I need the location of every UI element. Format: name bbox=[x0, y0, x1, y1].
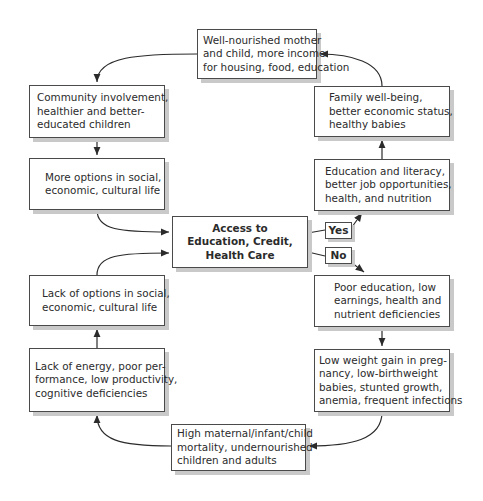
node-text: Community involvement, bbox=[37, 91, 157, 104]
node-lack-of-options: Lack of options in social, economic, cul… bbox=[29, 275, 165, 326]
node-text: nutrient deficiencies bbox=[334, 308, 442, 321]
node-high-mortality: High maternal/infant/child mortality, un… bbox=[171, 424, 306, 471]
node-text: healthier and better- bbox=[37, 105, 157, 118]
node-text: children and adults bbox=[177, 454, 298, 467]
node-education-literacy: Education and literacy, better job oppor… bbox=[314, 159, 450, 211]
node-more-options: More options in social, economic, cultur… bbox=[29, 158, 165, 210]
node-text: cognitive deficiencies bbox=[35, 387, 157, 400]
node-text: mortality, undernourished bbox=[177, 441, 298, 454]
node-text: Health Care bbox=[180, 249, 300, 262]
node-text: for housing, food, education bbox=[203, 61, 311, 74]
node-text: economic, cultural life bbox=[45, 184, 157, 197]
node-text: nancy, low-birthweight bbox=[319, 367, 446, 380]
node-text: better job opportunities, bbox=[325, 178, 442, 191]
node-text: Education, Credit, bbox=[180, 235, 300, 248]
node-family-well-being: Family well-being, better economic statu… bbox=[314, 86, 450, 137]
node-text: Education and literacy, bbox=[325, 165, 442, 178]
node-text: More options in social, bbox=[45, 171, 157, 184]
node-text: Well-nourished mother bbox=[203, 34, 311, 47]
node-text: earnings, health and bbox=[334, 294, 442, 307]
node-text: Poor education, low bbox=[334, 281, 442, 294]
node-poor-education: Poor education, low earnings, health and… bbox=[314, 275, 450, 327]
node-lack-of-energy: Lack of energy, poor per- formance, low … bbox=[29, 348, 165, 412]
node-text: Low weight gain in preg- bbox=[319, 354, 446, 367]
node-text: educated children bbox=[37, 118, 157, 131]
branch-no-label: No bbox=[325, 247, 352, 264]
node-low-weight-gain: Low weight gain in preg- nancy, low-birt… bbox=[314, 349, 450, 412]
node-text: better economic status, bbox=[329, 105, 442, 118]
node-text: Lack of options in social, bbox=[42, 287, 157, 300]
node-community-involvement: Community involvement, healthier and bet… bbox=[29, 85, 165, 138]
node-text: Lack of energy, poor per- bbox=[35, 360, 157, 373]
node-text: formance, low productivity, bbox=[35, 373, 157, 386]
node-text: economic, cultural life bbox=[42, 301, 157, 314]
node-text: anemia, frequent infections bbox=[319, 394, 446, 407]
node-well-nourished: Well-nourished mother and child, more in… bbox=[197, 29, 317, 79]
branch-yes-label: Yes bbox=[325, 222, 352, 239]
node-text: High maternal/infant/child bbox=[177, 427, 298, 440]
node-text: babies, stunted growth, bbox=[319, 381, 446, 394]
node-text: and child, more income bbox=[203, 47, 311, 60]
node-text: Family well-being, bbox=[329, 91, 442, 104]
node-access-to-education: Access to Education, Credit, Health Care bbox=[172, 216, 308, 268]
node-text: healthy babies bbox=[329, 118, 442, 131]
node-text: health, and nutrition bbox=[325, 192, 442, 205]
node-text: Access to bbox=[180, 222, 300, 235]
